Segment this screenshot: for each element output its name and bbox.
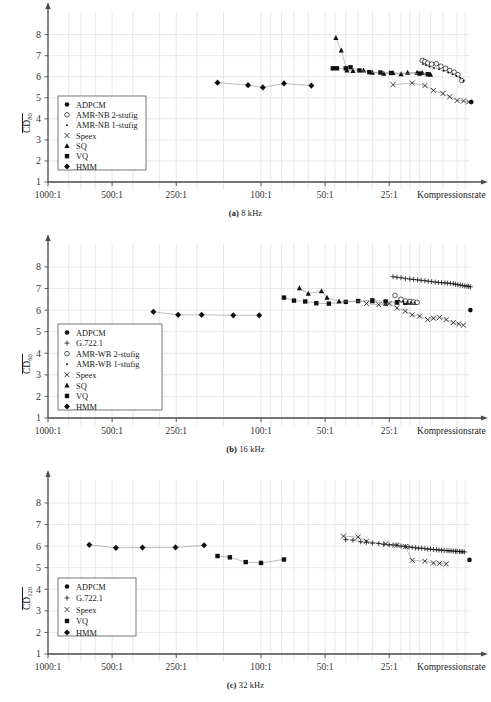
svg-text:250:1: 250:1 [165,426,187,436]
svg-text:4: 4 [36,113,41,124]
svg-text:8: 8 [36,29,41,40]
svg-text:100:1: 100:1 [250,426,272,436]
svg-text:5: 5 [36,562,41,573]
x-tick-labels-b: 1000:1500:1250:1100:150:125:1Kompression… [35,418,486,436]
svg-text:SQ: SQ [76,382,87,391]
legend-c: ADPCMG.722.1SpeexVQHMM [58,578,136,638]
svg-text:ADPCM: ADPCM [76,583,106,592]
svg-text:1: 1 [36,648,41,659]
svg-text:1000:1: 1000:1 [35,426,62,436]
svg-text:3: 3 [36,134,41,145]
svg-text:5: 5 [36,326,41,337]
series-adpcm [468,308,473,313]
y-tick-labels-c: 12345678 [36,497,48,659]
series-adpcm [469,100,474,105]
svg-text:G.722.1: G.722.1 [76,594,103,603]
svg-text:7: 7 [36,50,41,61]
svg-text:1000:1: 1000:1 [35,662,62,672]
svg-text:1: 1 [36,176,41,187]
plot-area-a: 123456781000:1500:1250:1100:150:125:1Kom… [0,0,491,200]
x-tick-labels-a: 1000:1500:1250:1100:150:125:1Kompression… [35,182,486,200]
figure-container: 123456781000:1500:1250:1100:150:125:1Kom… [0,0,491,702]
x-axis-title-c: Kompressionsrate [417,662,486,672]
svg-text:100:1: 100:1 [250,662,272,672]
chart-svg-a: 123456781000:1500:1250:1100:150:125:1Kom… [0,0,491,200]
y-tick-labels-b: 12345678 [36,261,48,423]
chart-panel-a: 123456781000:1500:1250:1100:150:125:1Kom… [0,0,491,232]
chart-panel-c: 123456781000:1500:1250:1100:150:125:1Kom… [0,468,491,702]
svg-text:VQ: VQ [76,152,88,161]
svg-text:500:1: 500:1 [101,662,123,672]
svg-text:500:1: 500:1 [101,426,123,436]
svg-text:1000:1: 1000:1 [35,190,62,200]
y-tick-labels-a: 12345678 [36,29,48,187]
chart-panel-b: 123456781000:1500:1250:1100:150:125:1Kom… [0,232,491,468]
svg-text:VQ: VQ [76,617,88,626]
svg-text:25:1: 25:1 [381,190,398,200]
legend-b: ADPCMG.722.1AMR-WB 2-stufigAMR-WB 1-stuf… [58,324,162,412]
svg-text:Speex: Speex [76,606,97,615]
svg-text:250:1: 250:1 [165,662,187,672]
svg-text:6: 6 [36,305,41,316]
svg-text:8: 8 [36,497,41,508]
svg-text:HMM: HMM [76,629,97,638]
svg-text:7: 7 [36,519,41,530]
svg-text:SQ: SQ [76,142,87,151]
series-speex [341,534,449,567]
legend-item-amr-wb-2-stufig: AMR-WB 2-stufig [65,350,141,359]
series-g-722-1 [343,537,467,554]
svg-text:2: 2 [36,155,41,166]
x-axis-title-b: Kompressionsrate [417,426,486,436]
svg-text:Speex: Speex [76,132,97,141]
data-series-b [150,274,472,328]
chart-svg-b: 123456781000:1500:1250:1100:150:125:1Kom… [0,232,491,438]
svg-text:4: 4 [36,584,41,595]
svg-text:VQ: VQ [76,392,88,401]
series-g-722-1 [391,274,473,289]
svg-text:HMM: HMM [76,163,97,172]
svg-text:8: 8 [36,261,41,272]
svg-text:3: 3 [36,605,41,616]
plot-area-c: 123456781000:1500:1250:1100:150:125:1Kom… [0,468,491,674]
svg-text:2: 2 [36,627,41,638]
svg-text:25:1: 25:1 [381,662,398,672]
y-axis-label-c: CD120 [22,587,33,610]
svg-text:5: 5 [36,92,41,103]
svg-text:ADPCM: ADPCM [76,101,106,110]
svg-text:ADPCM: ADPCM [76,329,106,338]
plot-area-b: 123456781000:1500:1250:1100:150:125:1Kom… [0,232,491,438]
svg-text:Speex: Speex [76,371,97,380]
data-series-c [86,534,472,567]
y-axis-label-a: CD80 [22,113,33,133]
svg-text:HMM: HMM [76,403,97,412]
svg-text:500:1: 500:1 [101,190,123,200]
legend-item-amr-nb-1-stufig: AMR-NB 1-stufig [66,121,138,130]
chart-svg-c: 123456781000:1500:1250:1100:150:125:1Kom… [0,468,491,674]
svg-text:1: 1 [36,412,41,423]
legend-a: ADPCMAMR-NB 2-stufigAMR-NB 1-stufigSpeex… [58,96,146,172]
panel-caption-b: (b) 16 kHz [0,444,491,454]
svg-text:7: 7 [36,283,41,294]
svg-text:250:1: 250:1 [165,190,187,200]
panel-caption-a: (a) 8 kHz [0,208,491,218]
series-vq [215,554,286,565]
svg-text:4: 4 [36,348,41,359]
y-axis-label-b: CD60 [22,354,33,374]
svg-text:AMR-WB 1-stufig: AMR-WB 1-stufig [76,360,140,369]
svg-text:3: 3 [36,369,41,380]
svg-text:G.722.1: G.722.1 [76,339,103,348]
svg-text:AMR-WB 2-stufig: AMR-WB 2-stufig [76,350,140,359]
svg-text:50:1: 50:1 [317,426,334,436]
legend-item-amr-wb-1-stufig: AMR-WB 1-stufig [66,360,140,369]
svg-text:6: 6 [36,541,41,552]
svg-text:50:1: 50:1 [317,190,334,200]
series-adpcm [467,558,472,563]
series-hmm [215,80,315,91]
x-axis-title-a: Kompressionsrate [417,190,486,200]
svg-text:2: 2 [36,391,41,402]
svg-text:50:1: 50:1 [317,662,334,672]
panel-caption-c: (c) 32 kHz [0,680,491,690]
data-series-a [215,35,474,105]
series-speex [364,301,466,328]
svg-text:100:1: 100:1 [250,190,272,200]
